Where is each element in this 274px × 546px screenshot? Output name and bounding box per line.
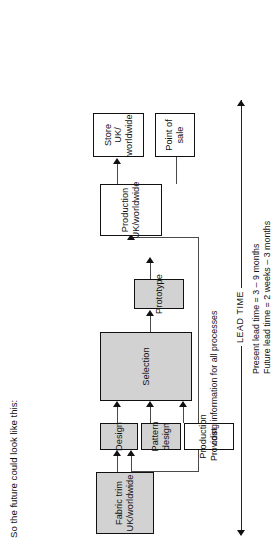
arrowhead-lead-time-end: [237, 100, 245, 106]
arrowhead-selection-to-prototype: [146, 310, 154, 316]
connector-selection-to-prototype: [150, 314, 151, 332]
connector-production-to-store: [117, 162, 118, 184]
connector-cost-to-selection: [183, 405, 184, 423]
node-design[interactable]: Design: [100, 423, 138, 450]
connector-prototype-to-production: [150, 261, 151, 279]
node-pattern-design[interactable]: Pattern design: [141, 423, 181, 450]
flowchart-canvas: So the future could look like this:: [0, 0, 274, 546]
arrowhead-lead-time-start: [237, 530, 245, 536]
rotated-page-wrapper: So the future could look like this:: [0, 0, 274, 546]
connector-feedback-to-design: [131, 454, 132, 472]
arrowhead-pattern-to-selection: [146, 401, 154, 407]
arrowhead-feedback-to-design: [127, 450, 135, 456]
annotation-providing-information: Providing information for all processes: [209, 311, 219, 461]
arrowhead-prototype-to-production: [146, 257, 154, 263]
node-fabric-trim[interactable]: Fabric trim UK/worldwide: [96, 472, 154, 534]
page-title: So the future could look like this:: [8, 400, 19, 538]
lead-time-label: LEAD TIME: [235, 288, 245, 346]
node-point-of-sale[interactable]: Point of sale: [155, 113, 195, 157]
connector-design-to-selection: [117, 405, 118, 423]
arrowhead-design-to-selection: [113, 401, 121, 407]
connector-pattern-to-selection: [150, 405, 151, 423]
arrowhead-cost-to-selection: [179, 401, 187, 407]
node-store[interactable]: Store UK/ worldwide: [93, 113, 144, 157]
present-lead-time-text: Present lead time = 3 – 9 months: [251, 244, 261, 375]
connector-fabric-to-design: [117, 454, 118, 472]
arrowhead-production-to-store: [113, 158, 121, 164]
node-selection[interactable]: Selection: [100, 332, 192, 401]
future-lead-time-text: Future lead time = 2 weeks – 3 months: [262, 221, 272, 374]
node-production[interactable]: Production UK/worldwide: [100, 184, 162, 236]
node-prototype[interactable]: Prototype: [134, 279, 184, 309]
